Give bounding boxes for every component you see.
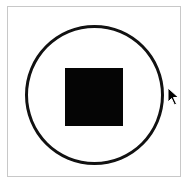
mouse-cursor-icon bbox=[167, 87, 181, 107]
stop-icon[interactable] bbox=[65, 68, 123, 126]
